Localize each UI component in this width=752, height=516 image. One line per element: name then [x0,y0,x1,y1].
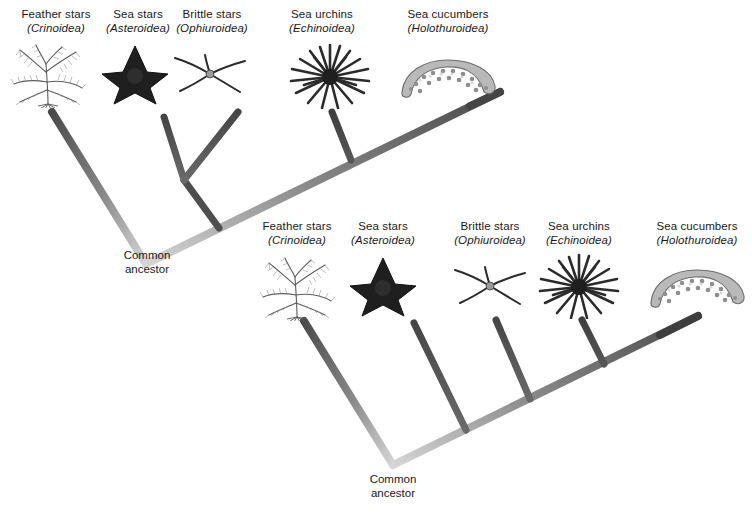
bottom-branch-asteroidea [414,323,466,430]
taxon-common-name: Feather stars [251,220,343,234]
taxon-scientific-name: (Crinoidea) [10,22,102,36]
taxon-scientific-name: (Echinoidea) [534,234,624,248]
sea-cucumber-icon [396,56,500,100]
taxon-scientific-name: (Echinoidea) [277,22,367,36]
sea-urchin-icon [288,43,372,109]
bottom-branch-backbone [393,316,698,465]
taxon-label-crinoidea-top: Feather stars (Crinoidea) [10,8,102,35]
taxon-label-holothuroidea-bottom: Sea cucumbers (Holothuroidea) [645,220,749,247]
bottom-branch-echinoidea [582,320,604,364]
sea-star-icon [100,44,170,106]
top-branch-asteroid-ophiuroid-stem [184,180,219,228]
common-ancestor-line2: ancestor [358,487,428,501]
common-ancestor-line2: ancestor [112,263,182,277]
taxon-scientific-name: (Crinoidea) [251,234,343,248]
feather-star-icon [6,42,90,108]
feather-star-icon [255,255,339,321]
taxon-common-name: Brittle stars [166,8,258,22]
bottom-branch-ophiuroidea [496,320,530,399]
top-branch-asteroidea [164,117,184,180]
taxon-common-name: Brittle stars [444,220,536,234]
taxon-label-ophiuroidea-bottom: Brittle stars (Ophiuroidea) [444,220,536,247]
common-ancestor-line1: Common [112,249,182,263]
taxon-label-crinoidea-bottom: Feather stars (Crinoidea) [251,220,343,247]
taxon-common-name: Sea stars [341,220,425,234]
taxon-common-name: Sea cucumbers [645,220,749,234]
taxon-common-name: Sea cucumbers [396,8,500,22]
taxon-scientific-name: (Ophiuroidea) [444,234,536,248]
sea-star-icon [348,256,418,318]
common-ancestor-line1: Common [358,473,428,487]
top-branch-ophiuroidea [184,112,238,180]
taxon-label-echinoidea-bottom: Sea urchins (Echinoidea) [534,220,624,247]
taxon-scientific-name: (Holothuroidea) [645,234,749,248]
bottom-branch-crinoidea [304,321,393,465]
taxon-label-echinoidea-top: Sea urchins (Echinoidea) [277,8,367,35]
common-ancestor-label-top: Common ancestor [112,249,182,276]
sea-cucumber-icon [645,266,749,310]
sea-urchin-icon [537,253,621,319]
top-branch-crinoidea [52,112,146,264]
taxon-scientific-name: (Asteroidea) [341,234,425,248]
brittle-star-icon [172,53,248,95]
brittle-star-icon [452,265,528,307]
taxon-common-name: Sea urchins [277,8,367,22]
bottom-branch-holothuroidea [660,316,698,335]
taxon-label-holothuroidea-top: Sea cucumbers (Holothuroidea) [396,8,500,35]
bottom-cladogram [304,316,698,465]
taxon-common-name: Feather stars [10,8,102,22]
taxon-label-ophiuroidea-top: Brittle stars (Ophiuroidea) [166,8,258,35]
top-branch-echinoidea [332,112,351,160]
figure-canvas: Feather stars (Crinoidea) Sea stars (Ast… [0,0,752,516]
taxon-common-name: Sea urchins [534,220,624,234]
taxon-scientific-name: (Ophiuroidea) [166,22,258,36]
common-ancestor-label-bottom: Common ancestor [358,473,428,500]
taxon-scientific-name: (Holothuroidea) [396,22,500,36]
taxon-label-asteroidea-bottom: Sea stars (Asteroidea) [341,220,425,247]
